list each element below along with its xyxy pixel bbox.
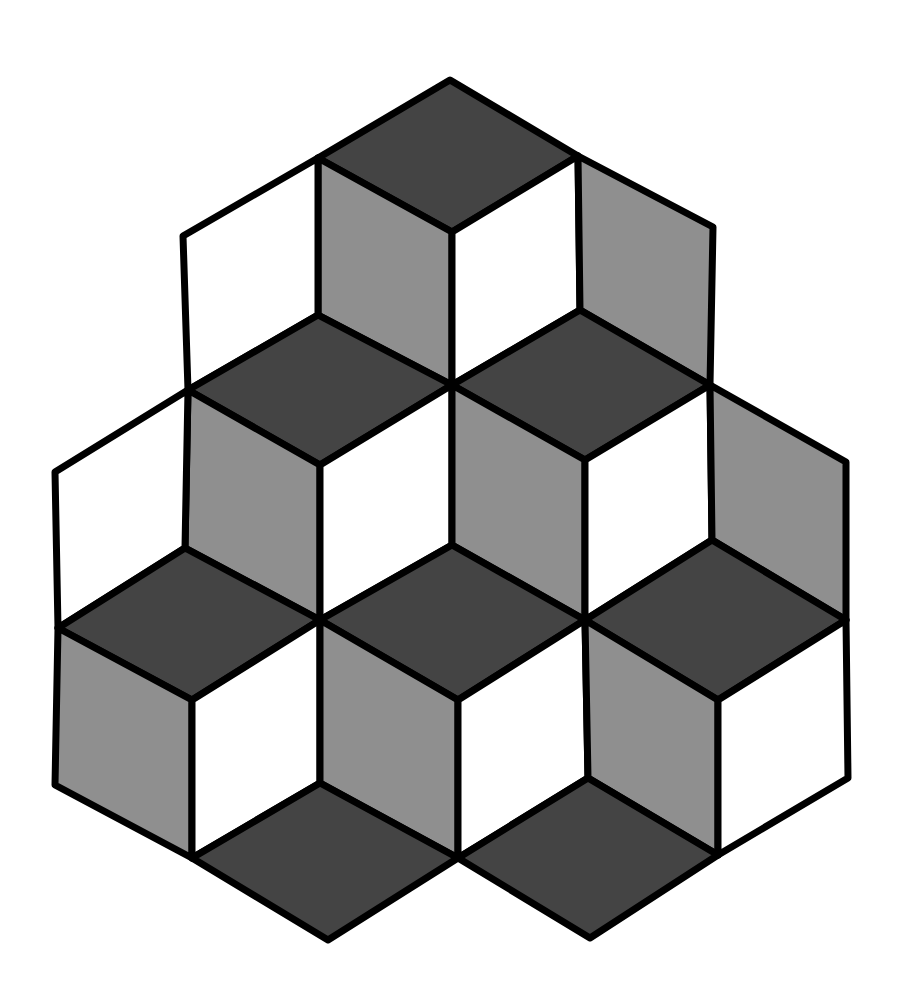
cube-canvas (0, 0, 900, 993)
cube-illustration: Isometric stacked cubes illusion (0, 0, 900, 993)
